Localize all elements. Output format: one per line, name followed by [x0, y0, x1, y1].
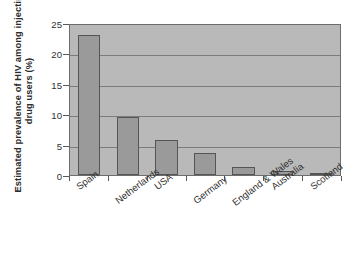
- bar-germany: [194, 153, 216, 175]
- bar-slot: [263, 25, 302, 175]
- y-axis-tick-label: 5: [36, 140, 62, 151]
- y-axis-tick-label: 20: [36, 49, 62, 60]
- y-axis-title-line-2: drug users (%): [24, 58, 36, 125]
- x-axis-tick-mark: [302, 176, 303, 181]
- x-axis-tick-mark: [69, 176, 70, 181]
- bar-series: [70, 25, 340, 175]
- plot-area: [69, 24, 341, 176]
- bar-usa: [155, 140, 177, 175]
- y-axis-title-line-1: Estimated prevalence of HIV among inject…: [13, 0, 25, 193]
- bar-slot: [301, 25, 340, 175]
- bar-netherlands: [117, 117, 139, 175]
- x-axis-tick-mark: [186, 176, 187, 181]
- bar-slot: [70, 25, 109, 175]
- bar-spain: [78, 35, 100, 175]
- x-axis-label-germany: Germany: [191, 173, 229, 206]
- y-axis-tick-label: 25: [36, 19, 62, 30]
- bar-slot: [224, 25, 263, 175]
- bar-slot: [186, 25, 225, 175]
- bar-england-wales: [232, 167, 254, 175]
- y-axis-tick-label: 15: [36, 79, 62, 90]
- bar-chart: Estimated prevalence of HIV among inject…: [0, 0, 355, 262]
- y-axis-tick-label: 0: [36, 171, 62, 182]
- bar-slot: [147, 25, 186, 175]
- bar-slot: [109, 25, 148, 175]
- x-axis-tick-mark: [108, 176, 109, 181]
- y-axis-tick-label: 10: [36, 110, 62, 121]
- x-axis-tick-mark: [341, 176, 342, 181]
